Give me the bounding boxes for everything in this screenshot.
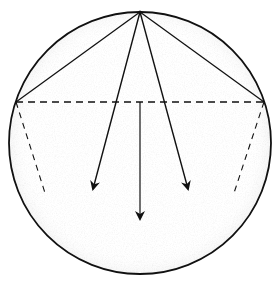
apex-point [138,10,141,13]
circle-force-diagram [0,0,280,284]
